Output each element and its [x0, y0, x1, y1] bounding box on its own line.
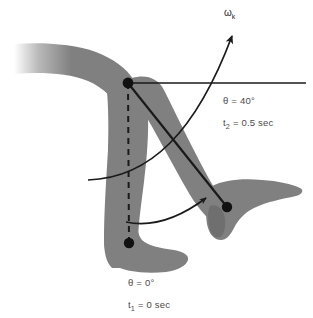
final-time-value: = 0.5 sec	[230, 117, 273, 128]
knee-joint-marker	[123, 78, 134, 89]
knee-angular-velocity-diagram: ωk θ = 40° t2 = 0.5 sec θ = 0° t1 = 0 se…	[0, 0, 313, 318]
initial-angle-label: θ = 0°	[128, 278, 154, 288]
final-angle-label: θ = 40°	[223, 96, 255, 106]
initial-time-value: = 0 sec	[135, 299, 170, 310]
omega-symbol: ω	[224, 7, 232, 18]
ankle-initial-marker	[124, 238, 134, 248]
angular-velocity-label: ωk	[224, 8, 235, 18]
shank-initial-dashed-line	[128, 83, 129, 243]
initial-time-label: t1 = 0 sec	[128, 300, 170, 310]
ankle-final-marker	[222, 202, 232, 212]
diagram-canvas	[0, 0, 313, 318]
final-time-label: t2 = 0.5 sec	[223, 118, 274, 128]
limb-silhouette-group	[14, 43, 302, 272]
omega-subscript: k	[232, 13, 236, 20]
